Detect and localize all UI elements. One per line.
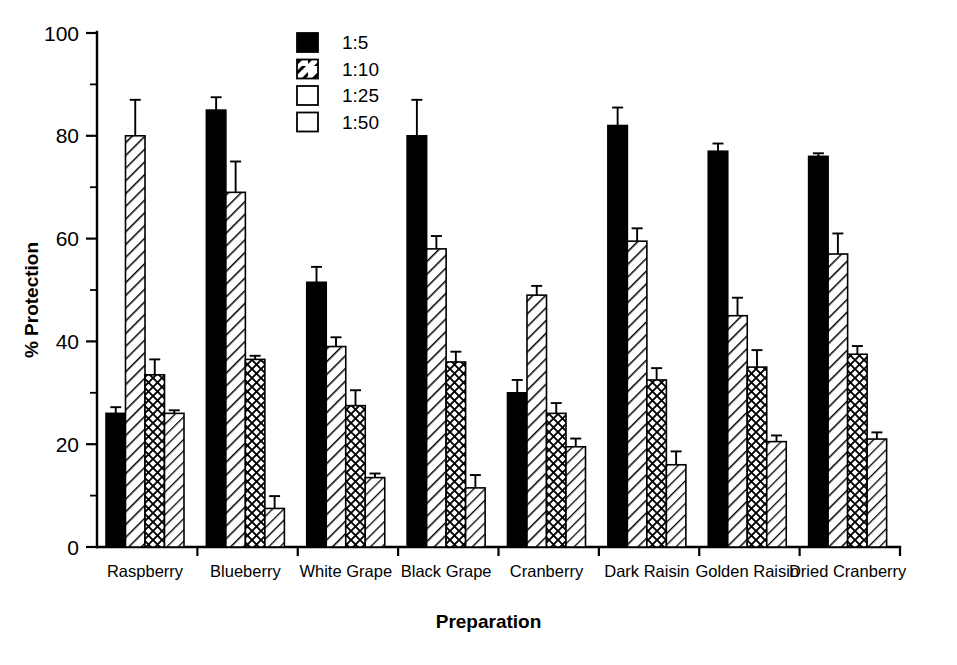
- bar: [365, 478, 385, 547]
- x-category-label: Raspberry: [107, 562, 184, 580]
- bar: [206, 110, 226, 547]
- legend-label-1-50: 1:50: [342, 112, 379, 133]
- bar: [867, 439, 887, 547]
- y-tick-label: 40: [56, 330, 79, 353]
- bar-group: [307, 267, 385, 547]
- legend-label-1-10: 1:10: [342, 59, 379, 80]
- x-category-label: Blueberry: [210, 562, 281, 580]
- bar: [245, 359, 265, 547]
- y-axis-title: % Protection: [21, 242, 42, 358]
- bar: [407, 136, 427, 547]
- x-category-label: Dried Cranberry: [789, 562, 907, 580]
- bar: [508, 393, 528, 547]
- bar: [747, 367, 767, 547]
- bar: [647, 380, 667, 547]
- y-tick-label: 100: [44, 22, 79, 45]
- legend-swatch-1-25: [297, 86, 318, 105]
- bar: [547, 413, 567, 547]
- bar: [106, 413, 126, 547]
- bar: [326, 347, 346, 547]
- legend-label-1-25: 1:25: [342, 85, 379, 106]
- bar-group: [106, 100, 184, 547]
- bar-chart-figure: 020406080100% ProtectionRaspberryBlueber…: [0, 0, 957, 665]
- bar-group: [708, 144, 786, 547]
- legend-swatch-1-50: [297, 113, 318, 132]
- bar: [126, 136, 146, 547]
- bar: [226, 192, 246, 547]
- y-tick-label: 20: [56, 433, 79, 456]
- x-category-label: Cranberry: [510, 562, 584, 580]
- chart-canvas: 020406080100% ProtectionRaspberryBlueber…: [0, 0, 957, 665]
- bar: [708, 151, 728, 547]
- bar: [307, 282, 327, 547]
- bar: [809, 156, 829, 547]
- bar: [767, 442, 787, 547]
- bar-group: [809, 153, 887, 547]
- x-axis-title: Preparation: [436, 611, 542, 632]
- x-category-label: White Grape: [299, 562, 392, 580]
- bar: [427, 249, 447, 547]
- bar: [828, 254, 848, 547]
- chart-legend: 1:51:101:251:50: [297, 32, 379, 133]
- bar: [346, 406, 366, 547]
- bar-group: [608, 108, 686, 547]
- bar: [666, 465, 686, 547]
- bar: [848, 354, 868, 547]
- bar-group: [206, 97, 284, 547]
- bar: [446, 362, 466, 547]
- x-category-label: Golden Raisin: [695, 562, 799, 580]
- bar: [466, 488, 486, 547]
- legend-swatch-1-5: [297, 33, 318, 52]
- bar: [165, 413, 185, 547]
- bar-group: [407, 100, 485, 547]
- bar: [608, 126, 628, 547]
- legend-swatch-1-10: [297, 60, 318, 79]
- bar: [265, 508, 285, 547]
- x-category-label: Dark Raisin: [604, 562, 689, 580]
- bar: [527, 295, 547, 547]
- y-tick-label: 60: [56, 227, 79, 250]
- bar: [145, 375, 165, 547]
- bar-group: [508, 286, 586, 547]
- legend-label-1-5: 1:5: [342, 32, 368, 53]
- y-tick-label: 80: [56, 124, 79, 147]
- plot-area: 020406080100% ProtectionRaspberryBlueber…: [21, 22, 907, 633]
- y-tick-label: 0: [67, 536, 79, 559]
- bar: [627, 241, 647, 547]
- bar: [728, 316, 748, 547]
- x-category-label: Black Grape: [401, 562, 492, 580]
- bar: [566, 447, 586, 547]
